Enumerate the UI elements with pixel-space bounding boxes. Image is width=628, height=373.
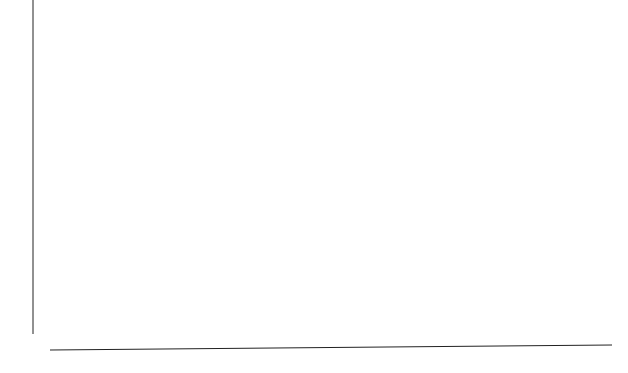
chart-svg xyxy=(0,0,628,373)
label-elementary-bg xyxy=(370,316,530,328)
x-axis xyxy=(50,345,612,350)
chart xyxy=(0,0,628,373)
